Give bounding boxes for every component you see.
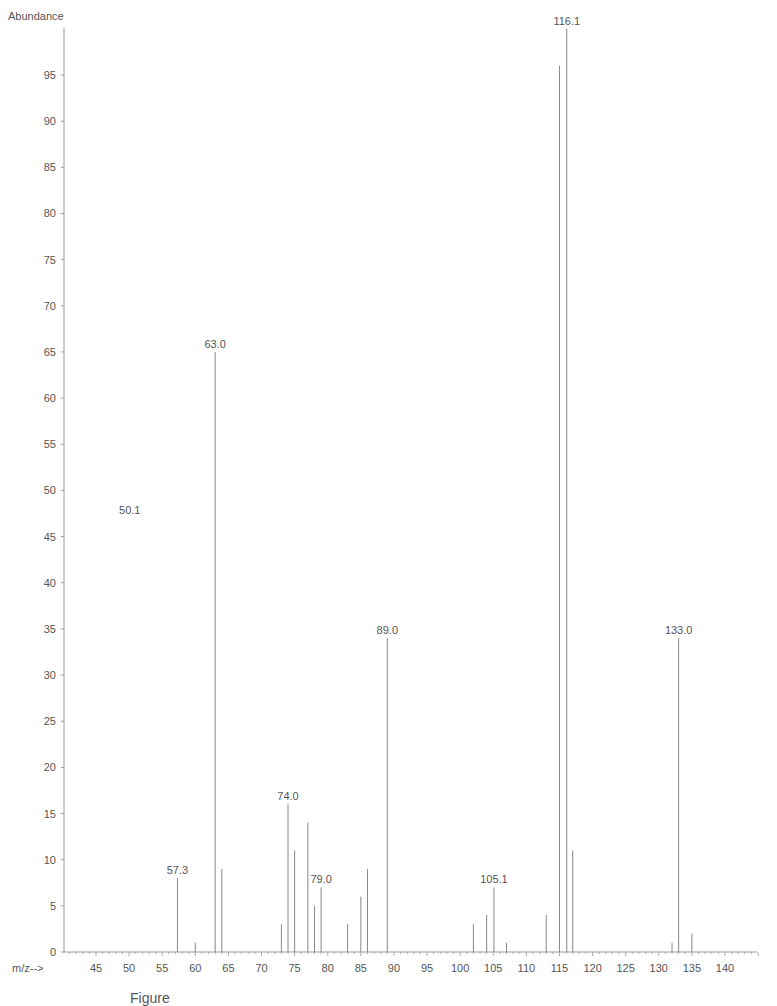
y-tick-label: 55 xyxy=(44,438,56,450)
x-tick-label: 140 xyxy=(716,962,734,974)
x-tick-label: 130 xyxy=(650,962,668,974)
y-tick-label: 70 xyxy=(44,300,56,312)
x-tick-label: 95 xyxy=(421,962,433,974)
x-tick-label: 125 xyxy=(617,962,635,974)
peak-labels: 57.363.074.079.089.0105.1116.1133.050.1 xyxy=(119,15,692,886)
x-tick-label: 80 xyxy=(322,962,334,974)
peak-label: 89.0 xyxy=(377,624,398,636)
x-tick-label: 115 xyxy=(551,962,569,974)
x-tick-label: 85 xyxy=(355,962,367,974)
x-tick-label: 50 xyxy=(123,962,135,974)
y-tick-label: 10 xyxy=(44,854,56,866)
x-tick-label: 75 xyxy=(289,962,301,974)
y-tick-label: 80 xyxy=(44,207,56,219)
y-tick-label: 5 xyxy=(50,900,56,912)
peak-label: 105.1 xyxy=(480,873,508,885)
y-tick-label: 35 xyxy=(44,623,56,635)
peak-label: 74.0 xyxy=(277,790,298,802)
y-tick-label: 0 xyxy=(50,946,56,958)
y-tick-label: 85 xyxy=(44,161,56,173)
figure-caption: Figure xyxy=(130,990,170,1006)
x-tick-label: 65 xyxy=(222,962,234,974)
y-axis-title: Abundance xyxy=(8,10,64,22)
peak-label: 50.1 xyxy=(119,504,140,516)
y-tick-label: 20 xyxy=(44,761,56,773)
y-tick-label: 75 xyxy=(44,254,56,266)
y-tick-label: 65 xyxy=(44,346,56,358)
peak-label: 57.3 xyxy=(167,864,188,876)
x-tick-label: 135 xyxy=(683,962,701,974)
x-tick-label: 55 xyxy=(156,962,168,974)
y-tick-label: 30 xyxy=(44,669,56,681)
y-tick-label: 90 xyxy=(44,115,56,127)
y-tick-label: 45 xyxy=(44,531,56,543)
y-tick-label: 15 xyxy=(44,808,56,820)
x-tick-label: 70 xyxy=(255,962,267,974)
x-tick-label: 90 xyxy=(388,962,400,974)
y-tick-label: 50 xyxy=(44,484,56,496)
x-tick-label: 45 xyxy=(90,962,102,974)
peak-label: 133.0 xyxy=(665,624,693,636)
x-tick-label: 120 xyxy=(583,962,601,974)
x-tick-label: 100 xyxy=(451,962,469,974)
peak-label: 116.1 xyxy=(553,15,580,27)
y-tick-label: 25 xyxy=(44,715,56,727)
peaks xyxy=(177,29,691,952)
y-tick-label: 95 xyxy=(44,69,56,81)
peak-label: 63.0 xyxy=(204,338,225,350)
y-tick-label: 40 xyxy=(44,577,56,589)
x-tick-label: 60 xyxy=(189,962,201,974)
x-tick-label: 110 xyxy=(518,962,536,974)
y-tick-label: 60 xyxy=(44,392,56,404)
x-tick-label: 105 xyxy=(484,962,502,974)
axes: 0510152025303540455055606570758085909545… xyxy=(44,28,758,974)
x-axis-title: m/z--> xyxy=(12,962,43,974)
peak-label: 79.0 xyxy=(310,873,331,885)
